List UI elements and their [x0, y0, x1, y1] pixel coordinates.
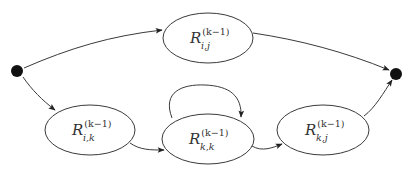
state-Rik-base: R [71, 121, 83, 139]
state-Rij-subscript: i,j [201, 40, 210, 51]
state-Rij-superscript: (k−1) [202, 26, 229, 37]
state-Rik-subscript: i,k [83, 132, 95, 143]
state-Rkj-subscript: k,j [316, 132, 328, 143]
state-Rkk-base: R [188, 130, 200, 148]
edge-start-to-Rij [24, 30, 162, 68]
end-node [390, 68, 402, 80]
state-Rkj-base: R [304, 121, 316, 139]
edge-Rik-to-Rkk [130, 143, 164, 150]
state-Rij-ellipse [163, 13, 253, 63]
state-Rik: R(k−1)i,k [45, 105, 135, 155]
state-Rkj-ellipse [277, 105, 369, 155]
edge-Rkk-to-Rkj [252, 144, 282, 149]
edge-start-to-Rik [23, 77, 55, 110]
state-Rij: R(k−1)i,j [163, 13, 253, 63]
diagram-canvas: R(k−1)i,j R(k−1)i,k R(k−1)k,k R(k−1)k,j [0, 0, 418, 172]
state-Rkk: R(k−1)k,k [162, 114, 254, 164]
state-Rij-base: R [189, 29, 201, 47]
state-Rik-superscript: (k−1) [84, 118, 111, 129]
state-Rkj-superscript: (k−1) [317, 118, 344, 129]
edge-Rij-to-end [253, 33, 389, 70]
self-loop-Rkk [169, 85, 241, 118]
state-Rkk-superscript: (k−1) [201, 127, 228, 138]
state-Rkj: R(k−1)k,j [277, 105, 369, 155]
state-Rik-ellipse [45, 105, 135, 155]
edge-Rkj-to-end [364, 80, 392, 116]
state-Rkk-ellipse [162, 114, 254, 164]
start-node [11, 65, 23, 77]
state-Rkk-subscript: k,k [200, 141, 215, 152]
